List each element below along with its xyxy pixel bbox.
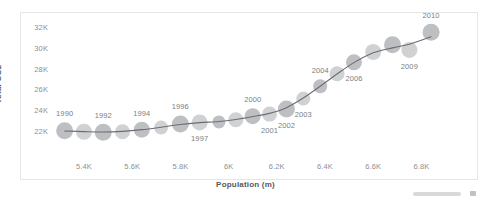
point-label-1992: 1992 (88, 111, 118, 120)
scrollbar-track[interactable] (20, 192, 478, 196)
x-axis-tick-0: 5.4K (67, 162, 101, 171)
point-label-1994: 1994 (127, 109, 157, 118)
point-label-2009: 2009 (394, 62, 424, 71)
x-axis-tick-3: 6K (212, 162, 246, 171)
point-label-1997: 1997 (185, 134, 215, 143)
point-label-2004: 2004 (305, 66, 335, 75)
y-axis-tick-0: 32K (22, 23, 48, 32)
y-axis-title: Total CO2 (0, 44, 3, 124)
scrollbar-thumb[interactable] (413, 192, 461, 196)
y-axis-tick-1: 30K (22, 44, 48, 53)
y-axis-tick-3: 26K (22, 85, 48, 94)
y-axis-tick-2: 28K (22, 65, 48, 74)
point-label-2003: 2003 (288, 110, 318, 119)
y-axis-tick-4: 24K (22, 106, 48, 115)
scrollbar-end-cap[interactable] (470, 191, 476, 196)
x-axis-tick-4: 6.2K (260, 162, 294, 171)
x-axis-tick-6: 6.6K (356, 162, 390, 171)
x-axis-tick-7: 6.8K (404, 162, 438, 171)
point-label-2006: 2006 (339, 74, 369, 83)
x-axis-tick-2: 5.8K (163, 162, 197, 171)
point-label-2010: 2010 (416, 11, 446, 20)
point-label-2000: 2000 (238, 95, 268, 104)
x-axis-tick-1: 5.6K (115, 162, 149, 171)
point-label-1990: 1990 (50, 109, 80, 118)
point-label-1996: 1996 (165, 102, 195, 111)
point-label-2002: 2002 (271, 121, 301, 130)
y-axis-tick-5: 22K (22, 127, 48, 136)
x-axis-tick-5: 6.4K (308, 162, 342, 171)
x-axis-title: Population (m) (0, 180, 491, 189)
